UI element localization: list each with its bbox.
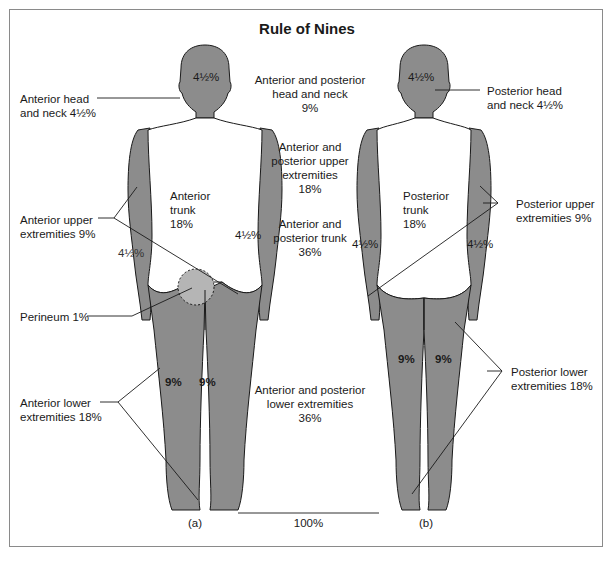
label-line: 18%	[240, 182, 380, 196]
label-line: Anterior upper	[20, 213, 95, 227]
label-anterior-lower-extremities: Anterior lower extremities 18%	[20, 396, 102, 424]
posterior-caption: (b)	[419, 516, 433, 530]
label-posterior-upper-extremities: Posterior upper extremities 9%	[516, 197, 595, 225]
label-line: Posterior lower	[511, 365, 593, 379]
label-line: and neck 4½%	[487, 98, 563, 112]
posterior-trunk-value: 18%	[403, 217, 463, 231]
anterior-left-leg	[148, 282, 205, 510]
label-line: Posterior head	[487, 84, 563, 98]
label-line: Anterior and posterior	[230, 383, 390, 397]
label-line: extremities	[240, 168, 380, 182]
label-line: Perineum 1%	[20, 310, 89, 324]
label-line: 9%	[240, 101, 380, 115]
posterior-left-leg-value: 9%	[398, 352, 415, 366]
label-line: lower extremities	[230, 397, 390, 411]
label-line: and neck 4½%	[20, 106, 96, 120]
label-line: posterior upper	[240, 154, 380, 168]
label-center-upper-extremities: Anterior and posterior upper extremities…	[240, 140, 380, 196]
label-anterior-head-neck: Anterior head and neck 4½%	[20, 92, 96, 120]
posterior-right-leg	[424, 285, 471, 510]
label-line: Anterior lower	[20, 396, 102, 410]
label-line: Anterior head	[20, 92, 96, 106]
posterior-trunk-label: Posterior trunk 18%	[403, 189, 463, 231]
label-line: extremities 18%	[511, 379, 593, 393]
posterior-head-value: 4½%	[408, 70, 434, 84]
label-line: Anterior and	[240, 140, 380, 154]
label-line: extremities 18%	[20, 410, 102, 424]
anterior-caption: (a)	[188, 516, 202, 530]
anterior-head-value: 4½%	[193, 70, 219, 84]
posterior-right-leg-value: 9%	[435, 352, 452, 366]
anterior-right-leg-value: 9%	[199, 375, 216, 389]
label-line: head and neck	[240, 87, 380, 101]
label-center-lower-extremities: Anterior and posterior lower extremities…	[230, 383, 390, 425]
label-line: Anterior and posterior	[240, 73, 380, 87]
anterior-left-arm-value: 4½%	[118, 246, 144, 260]
label-total: 100%	[238, 516, 379, 530]
label-line: posterior trunk	[240, 231, 380, 245]
anterior-trunk-label: Anterior trunk 18%	[170, 189, 230, 231]
anterior-left-leg-value: 9%	[165, 375, 182, 389]
anterior-trunk-value: 18%	[170, 217, 230, 231]
posterior-right-arm-value: 4½%	[467, 237, 493, 251]
label-line: extremities 9%	[20, 227, 95, 241]
label-line: 36%	[240, 245, 380, 259]
label-line: extremities 9%	[516, 211, 595, 225]
label-anterior-upper-extremities: Anterior upper extremities 9%	[20, 213, 95, 241]
label-line: 36%	[230, 411, 390, 425]
label-perineum: Perineum 1%	[20, 310, 89, 324]
label-posterior-lower-extremities: Posterior lower extremities 18%	[511, 365, 593, 393]
label-line: Anterior and	[240, 217, 380, 231]
anterior-trunk-line1: Anterior	[170, 189, 230, 203]
label-center-head-neck: Anterior and posterior head and neck 9%	[240, 73, 380, 115]
posterior-trunk-line1: Posterior	[403, 189, 463, 203]
label-center-trunk: Anterior and posterior trunk 36%	[240, 217, 380, 259]
label-line: Posterior upper	[516, 197, 595, 211]
anterior-trunk-line2: trunk	[170, 203, 230, 217]
anterior-perineum	[178, 269, 214, 305]
label-posterior-head-neck: Posterior head and neck 4½%	[487, 84, 563, 112]
posterior-trunk-line2: trunk	[403, 203, 463, 217]
